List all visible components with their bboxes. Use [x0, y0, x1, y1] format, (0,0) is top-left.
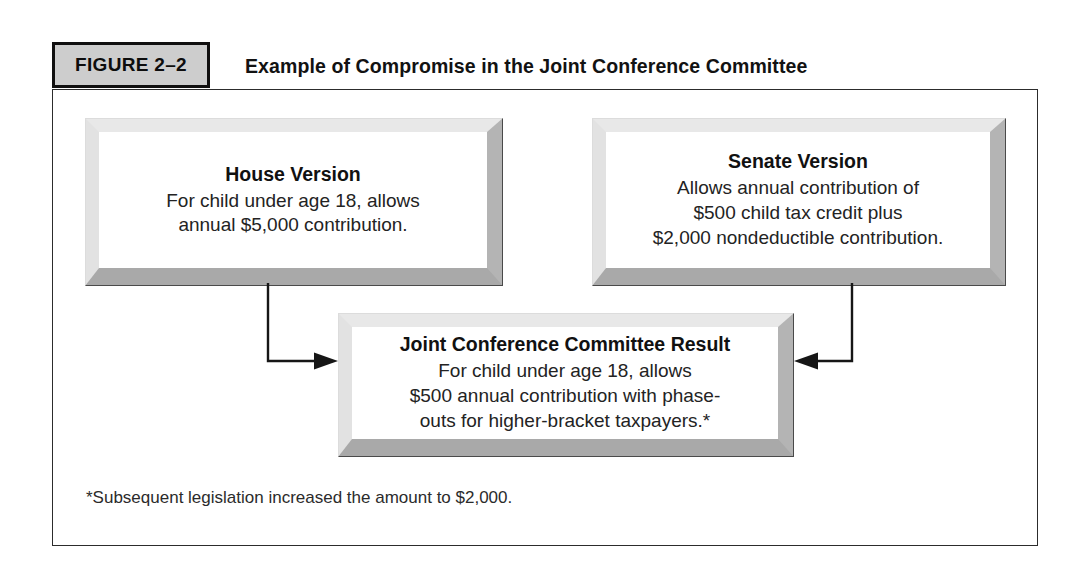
- node-body-line-1: For child under age 18, allows: [438, 359, 691, 384]
- figure-number-badge: FIGURE 2–2: [52, 42, 210, 88]
- node-title: Senate Version: [728, 149, 868, 174]
- node-content: Senate Version Allows annual contributio…: [606, 132, 990, 268]
- node-body-line-3: outs for higher-bracket taxpayers.*: [420, 409, 710, 434]
- node-house-version: House Version For child under age 18, al…: [85, 118, 503, 286]
- node-body-line-1: For child under age 18, allows: [166, 189, 419, 214]
- node-body-line-3: $2,000 nondeductible contribution.: [653, 226, 944, 251]
- figure-number-label: FIGURE 2–2: [75, 54, 187, 76]
- node-senate-version: Senate Version Allows annual contributio…: [592, 118, 1006, 286]
- node-body-line-2: $500 annual contribution with phase-: [410, 384, 721, 409]
- node-joint-conference-result: Joint Conference Committee Result For ch…: [338, 313, 794, 457]
- node-title: House Version: [225, 162, 360, 187]
- node-body-line-2: $500 child tax credit plus: [693, 201, 902, 226]
- node-body-line-1: Allows annual contribution of: [677, 176, 919, 201]
- node-content: House Version For child under age 18, al…: [99, 132, 487, 268]
- node-body-line-2: annual $5,000 contribution.: [178, 213, 407, 238]
- node-content: Joint Conference Committee Result For ch…: [352, 327, 778, 439]
- figure-container: FIGURE 2–2 Example of Compromise in the …: [0, 0, 1092, 586]
- node-title: Joint Conference Committee Result: [400, 332, 730, 357]
- figure-title: Example of Compromise in the Joint Confe…: [245, 52, 807, 80]
- figure-footnote: *Subsequent legislation increased the am…: [86, 488, 512, 508]
